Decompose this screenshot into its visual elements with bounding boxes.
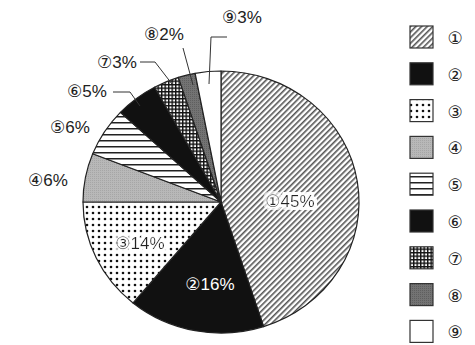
legend-swatch-6 [410, 210, 433, 232]
legend-label-2: ② [447, 65, 462, 85]
legend-label-5: ⑤ [447, 175, 462, 195]
legend-label-4: ④ [447, 138, 462, 158]
legend-label-3: ③ [447, 102, 462, 122]
legend-swatch-9 [410, 320, 433, 342]
slice-label-3: ③14% [115, 234, 164, 253]
legend-swatch-2 [410, 63, 433, 85]
slice-label-9: ⑨3% [222, 8, 262, 27]
slice-label-6: ⑥5% [67, 82, 107, 101]
slice-label-4: ④6% [28, 171, 68, 190]
pie-chart: ①45%②16%③14%④6%⑤6%⑥5%⑦3%⑧2%⑨3% ①②③④⑤⑥⑦⑧⑨ [0, 0, 475, 345]
legend-swatch-5 [410, 173, 433, 195]
slice-label-7: ⑦3% [97, 53, 137, 72]
legend-swatch-3 [410, 100, 433, 122]
legend-swatch-8 [410, 284, 433, 306]
legend-label-7: ⑦ [447, 249, 462, 269]
slice-label-2: ②16% [185, 275, 234, 294]
legend-label-8: ⑧ [447, 286, 462, 306]
legend-swatch-4 [410, 136, 433, 158]
legend: ①②③④⑤⑥⑦⑧⑨ [410, 26, 463, 342]
slice-label-5: ⑤6% [50, 118, 90, 137]
legend-label-6: ⑥ [447, 212, 462, 232]
legend-swatch-7 [410, 247, 433, 269]
slice-label-1: ①45% [265, 192, 314, 211]
leader-line-7 [140, 62, 172, 84]
slice-label-8: ⑧2% [144, 25, 184, 44]
legend-swatch-1 [410, 26, 433, 48]
legend-label-9: ⑨ [447, 322, 462, 342]
legend-label-1: ① [447, 28, 462, 48]
